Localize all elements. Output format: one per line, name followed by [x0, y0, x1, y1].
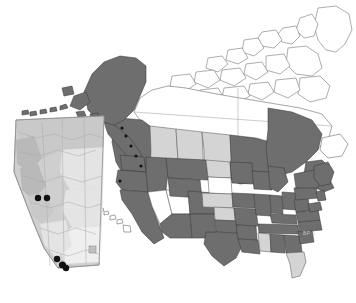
map-canvas [0, 0, 356, 303]
region-md [308, 202, 322, 212]
figure-credit-label: BP 1 [303, 230, 315, 236]
hawaii-group [100, 208, 131, 232]
region-in [270, 195, 283, 214]
region-ky [270, 214, 297, 224]
region-la [238, 239, 260, 254]
occurrence-dot [63, 265, 69, 271]
region-sd [208, 177, 232, 194]
region-nj [316, 190, 326, 201]
region-id [146, 157, 168, 192]
region-al [270, 234, 285, 253]
region-fl [286, 252, 306, 278]
region-nd [206, 160, 231, 178]
occurrence-dot [134, 154, 137, 157]
occurrence-dot [120, 126, 123, 129]
region-tx [204, 232, 242, 266]
occurrence-dot [35, 195, 41, 201]
occurrence-dot [44, 195, 50, 201]
region-mo [234, 208, 258, 226]
occurrence-dot [54, 256, 60, 262]
occurrence-dot [118, 179, 121, 182]
region-wa [120, 155, 146, 172]
occurrence-dot [129, 144, 132, 147]
region-tn [258, 224, 299, 234]
region-mt [166, 158, 208, 180]
distribution-map-figure: BP 1 [0, 0, 356, 303]
occurrence-dot [124, 134, 127, 137]
alberta-inset-map [14, 116, 104, 268]
region-ks [214, 207, 235, 221]
region-ne [202, 193, 233, 208]
region-il [254, 194, 271, 216]
region-nl [320, 134, 348, 158]
region-ms [258, 233, 271, 252]
region-ar [236, 225, 257, 240]
occurrence-dot [139, 164, 142, 167]
region-ia [232, 193, 255, 208]
region-mn [230, 162, 254, 184]
